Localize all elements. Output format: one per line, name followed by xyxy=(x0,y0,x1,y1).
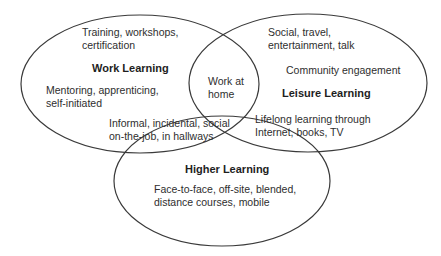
work-note-training: Training, workshops, certification xyxy=(82,26,178,52)
venn-diagram: Training, workshops, certification Work … xyxy=(0,0,441,256)
leisure-note-social: Social, travel, entertainment, talk xyxy=(268,26,354,52)
informal-learning-label: Informal, incidental, social on-the-job,… xyxy=(109,117,230,143)
leisure-note-community: Community engagement xyxy=(286,64,400,77)
work-learning-title: Work Learning xyxy=(92,62,169,75)
lifelong-learning-label: Lifelong learning through Internet, book… xyxy=(255,113,371,139)
work-note-mentoring: Mentoring, apprenticing, self-initiated xyxy=(46,84,159,110)
leisure-learning-title: Leisure Learning xyxy=(282,87,371,100)
work-at-home-label: Work at home xyxy=(208,75,244,101)
higher-note-formats: Face-to-face, off-site, blended, distanc… xyxy=(154,183,296,209)
higher-learning-title: Higher Learning xyxy=(185,163,269,176)
